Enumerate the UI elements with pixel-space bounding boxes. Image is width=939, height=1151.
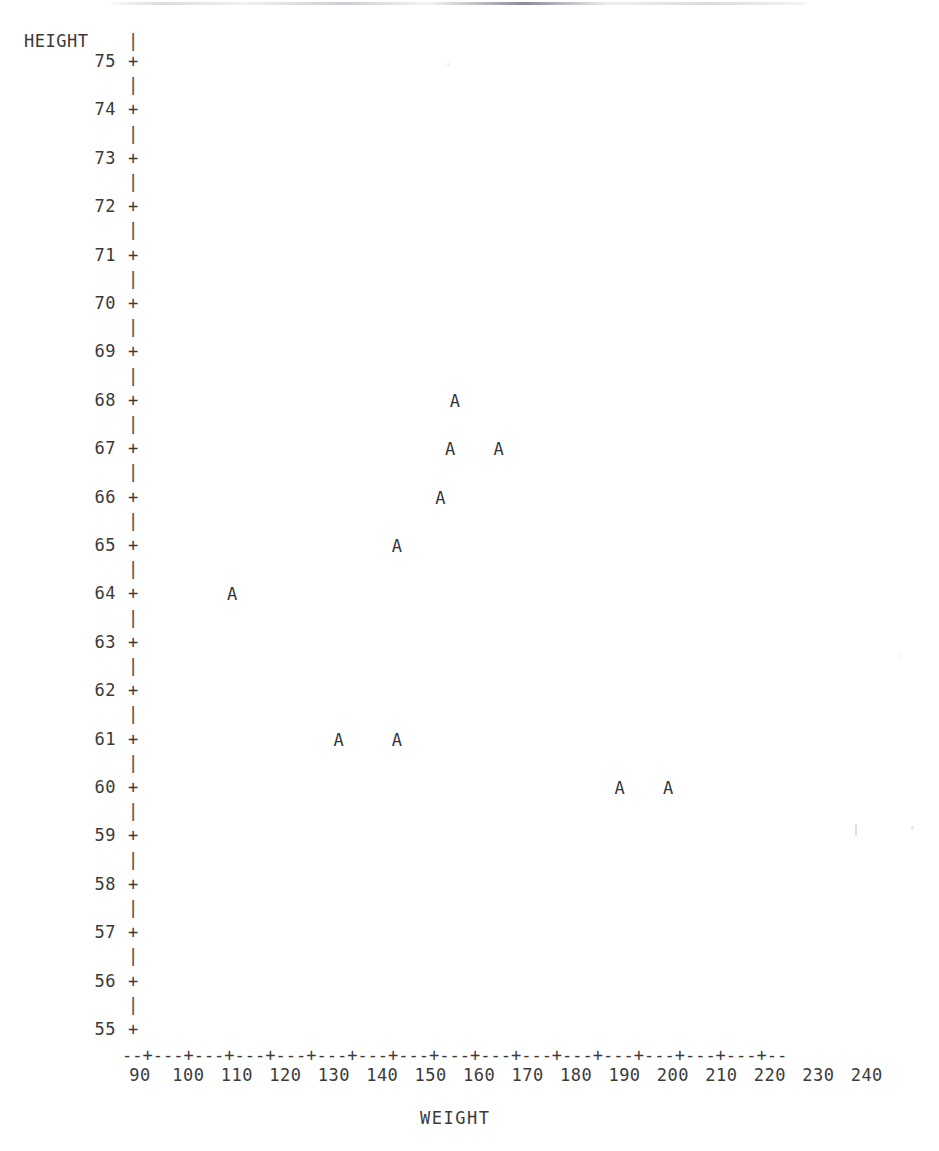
y-axis-tick-label: 72 [76, 196, 116, 216]
y-axis-tick-label: 61 [76, 729, 116, 749]
x-axis-tick-label: 180 [552, 1065, 600, 1085]
x-axis-tick-label: 110 [213, 1065, 261, 1085]
y-axis-major-tick: + [128, 487, 138, 507]
y-axis-tick-label: 58 [76, 874, 116, 894]
y-axis-tick-label: 71 [76, 245, 116, 265]
y-axis-tick-label: 63 [76, 632, 116, 652]
y-axis-tick-label: 74 [76, 99, 116, 119]
y-axis-minor-tick: | [128, 898, 138, 918]
y-axis-major-tick: + [128, 341, 138, 361]
y-axis-minor-tick: | [128, 220, 138, 240]
y-axis-minor-tick: | [128, 317, 138, 337]
y-axis-major-tick: + [128, 632, 138, 652]
data-point-marker: A [392, 536, 402, 556]
y-axis-minor-tick: | [128, 269, 138, 289]
data-point-marker: A [615, 778, 625, 798]
x-axis-tick-label: 160 [455, 1065, 503, 1085]
data-point-marker: A [493, 439, 503, 459]
data-point-marker: A [450, 391, 460, 411]
data-point-marker: A [445, 439, 455, 459]
y-axis-minor-tick: | [128, 559, 138, 579]
y-axis-major-tick: + [128, 922, 138, 942]
y-axis-minor-tick: | [128, 753, 138, 773]
scan-artifact-speck [855, 824, 857, 835]
y-axis-tick-label: 67 [76, 438, 116, 458]
data-point-marker: A [334, 730, 344, 750]
y-axis-tick-label: 60 [76, 777, 116, 797]
y-axis-minor-tick: | [128, 656, 138, 676]
y-axis-tick-label: 64 [76, 583, 116, 603]
character-scatter-plot: HEIGHT |75+|74+|73+|72+|71+|70+|69+|68+|… [0, 0, 939, 1151]
y-axis-major-tick: + [128, 293, 138, 313]
y-axis-major-tick: + [128, 535, 138, 555]
y-axis-tick-label: 59 [76, 825, 116, 845]
y-axis-major-tick: + [128, 971, 138, 991]
x-axis-tick-label: 200 [649, 1065, 697, 1085]
y-axis-tick-label: 66 [76, 487, 116, 507]
y-axis-minor-tick: | [128, 511, 138, 531]
x-axis-tick-label: 90 [116, 1065, 164, 1085]
x-axis-tick-label: 190 [601, 1065, 649, 1085]
y-axis-major-tick: + [128, 729, 138, 749]
x-axis-tick-label: 210 [697, 1065, 745, 1085]
y-axis-major-tick: + [128, 777, 138, 797]
x-axis-tick-label: 220 [746, 1065, 794, 1085]
y-axis-tick-label: 68 [76, 390, 116, 410]
y-axis-minor-tick: | [128, 462, 138, 482]
y-axis-tick-label: 69 [76, 341, 116, 361]
y-axis-major-tick: + [128, 874, 138, 894]
data-point-marker: A [663, 778, 673, 798]
y-axis-major-tick: + [128, 51, 138, 71]
y-axis-minor-tick: | [128, 946, 138, 966]
y-axis-tick-label: 73 [76, 148, 116, 168]
y-axis-minor-tick: | [128, 31, 138, 51]
y-axis-major-tick: + [128, 196, 138, 216]
x-axis-tick-label: 230 [794, 1065, 842, 1085]
x-axis-tick-label: 150 [407, 1065, 455, 1085]
x-axis-line: --+---+---+---+---+---+---+---+---+---+-… [122, 1045, 787, 1065]
y-axis-minor-tick: | [128, 366, 138, 386]
y-axis-major-tick: + [128, 680, 138, 700]
y-axis-tick-label: 57 [76, 922, 116, 942]
y-axis-minor-tick: | [128, 850, 138, 870]
data-point-marker: A [227, 584, 237, 604]
y-axis-major-tick: + [128, 438, 138, 458]
y-axis-tick-label: 55 [76, 1019, 116, 1039]
y-axis-minor-tick: | [128, 608, 138, 628]
y-axis-tick-label: 70 [76, 293, 116, 313]
x-axis-tick-label: 170 [504, 1065, 552, 1085]
y-axis-major-tick: + [128, 1019, 138, 1039]
x-axis-tick-label: 100 [164, 1065, 212, 1085]
x-axis-tick-label: 240 [843, 1065, 891, 1085]
y-axis-title: HEIGHT [24, 31, 88, 51]
y-axis-minor-tick: | [128, 704, 138, 724]
scan-artifact-speck [911, 826, 914, 829]
y-axis-tick-label: 62 [76, 680, 116, 700]
x-axis-tick-label: 130 [310, 1065, 358, 1085]
y-axis-tick-label: 75 [76, 51, 116, 71]
y-axis-major-tick: + [128, 99, 138, 119]
scan-artifact-speck [447, 63, 450, 66]
scan-artifact-speck [898, 655, 901, 657]
data-point-marker: A [435, 488, 445, 508]
y-axis-major-tick: + [128, 825, 138, 845]
x-axis-tick-label: 140 [358, 1065, 406, 1085]
y-axis-minor-tick: | [128, 75, 138, 95]
y-axis-minor-tick: | [128, 801, 138, 821]
clipped-title-smudge [105, 2, 805, 5]
data-point-marker: A [392, 730, 402, 750]
y-axis-major-tick: + [128, 583, 138, 603]
y-axis-minor-tick: | [128, 995, 138, 1015]
y-axis-major-tick: + [128, 148, 138, 168]
x-axis-title: WEIGHT [420, 1108, 490, 1128]
y-axis-minor-tick: | [128, 172, 138, 192]
y-axis-major-tick: + [128, 390, 138, 410]
y-axis-minor-tick: | [128, 414, 138, 434]
y-axis-minor-tick: | [128, 124, 138, 144]
y-axis-major-tick: + [128, 245, 138, 265]
x-axis-tick-label: 120 [261, 1065, 309, 1085]
y-axis-tick-label: 65 [76, 535, 116, 555]
y-axis-tick-label: 56 [76, 971, 116, 991]
